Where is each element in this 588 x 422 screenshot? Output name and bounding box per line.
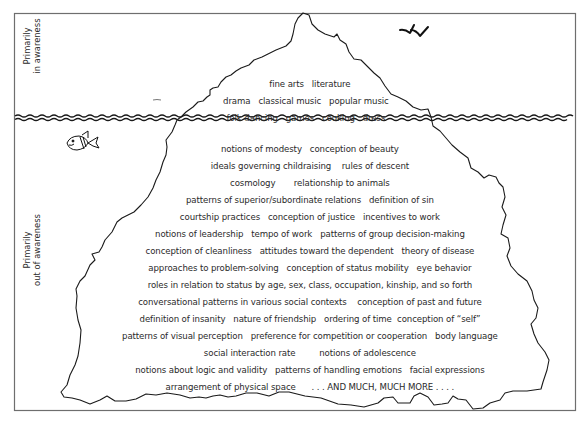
list-item-much-more: . . . AND MUCH, MUCH MORE . . . . bbox=[312, 382, 455, 393]
list-item: cooking bbox=[322, 113, 355, 124]
list-item: dress bbox=[363, 113, 386, 124]
birds-icon bbox=[400, 25, 428, 36]
list-item: arrangement of physical space bbox=[166, 382, 296, 393]
list-row: folk dancing games cooking dress bbox=[4, 102, 588, 135]
list-row: arrangement of physical space . . . AND … bbox=[8, 371, 588, 404]
iceberg-culture-diagram: Primarily in awareness Primarily out of … bbox=[0, 0, 588, 422]
list-item: folk dancing bbox=[226, 113, 277, 124]
list-item: games bbox=[286, 113, 314, 124]
